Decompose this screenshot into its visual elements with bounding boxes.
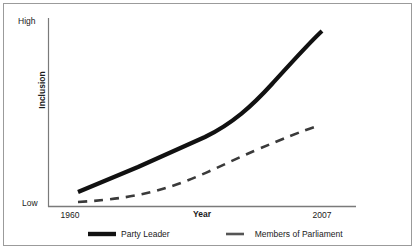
thick-solid-line-swatch-icon xyxy=(88,229,116,239)
y-axis-title: Inclusion xyxy=(37,47,47,133)
legend-label-members-of-parliament: Members of Parliament xyxy=(255,229,343,239)
legend-item-party-leader[interactable]: Party Leader xyxy=(88,229,170,239)
legend-label-party-leader: Party Leader xyxy=(121,229,170,239)
y-axis-tick-high: High xyxy=(18,16,35,26)
series-line-members-of-parliament xyxy=(78,126,318,202)
x-axis-title: Year xyxy=(160,209,244,219)
x-axis-tick-end: 2007 xyxy=(300,210,344,220)
chart-figure: High Low Inclusion Year 1960 2007 Party … xyxy=(0,0,416,250)
dashed-line-swatch-icon xyxy=(222,229,250,239)
chart-legend: Party Leader Members of Parliament xyxy=(88,226,350,242)
series-line-party-leader xyxy=(78,31,322,192)
legend-item-members-of-parliament[interactable]: Members of Parliament xyxy=(222,229,343,239)
x-axis-tick-start: 1960 xyxy=(48,210,92,220)
y-axis-tick-low: Low xyxy=(22,198,38,208)
